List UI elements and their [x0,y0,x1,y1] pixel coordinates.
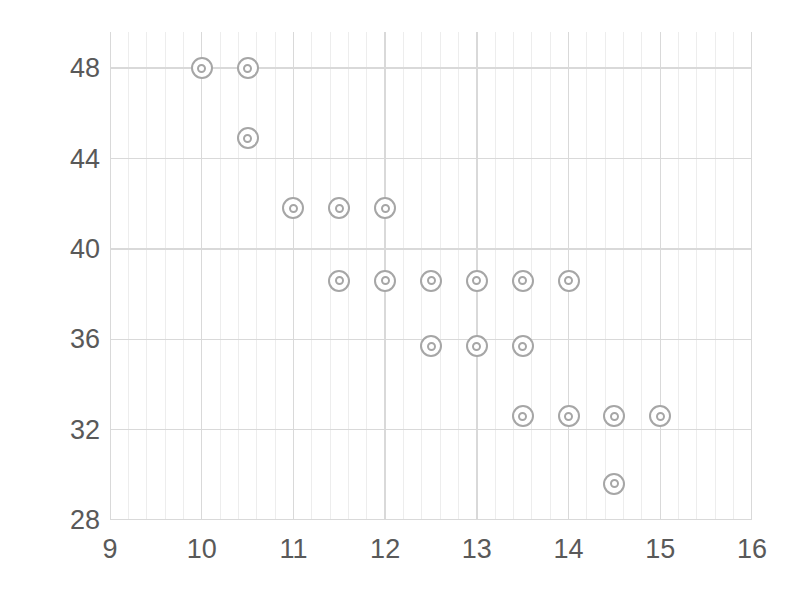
data-point [466,270,488,292]
x-axis-tick-label: 11 [253,536,333,563]
x-axis-tick-label: 9 [70,536,150,563]
data-point [603,473,625,495]
y-axis-tick-label: 32 [30,416,100,443]
data-point [649,405,671,427]
x-axis-tick-label: 10 [162,536,242,563]
data-point [328,197,350,219]
data-point [237,57,259,79]
data-point [282,197,304,219]
data-point [466,335,488,357]
y-axis-tick-label: 28 [30,507,100,534]
data-point [374,270,396,292]
x-axis-tick-label: 15 [620,536,700,563]
data-point [237,127,259,149]
x-axis-tick-label: 14 [529,536,609,563]
data-point [512,405,534,427]
y-axis-tick-label: 36 [30,326,100,353]
plot-area [110,32,752,520]
data-point [420,335,442,357]
data-point [558,405,580,427]
data-point [512,270,534,292]
y-axis-tick-label: 40 [30,235,100,262]
data-point [374,197,396,219]
data-point [558,270,580,292]
data-point [512,335,534,357]
data-point [328,270,350,292]
data-point [420,270,442,292]
data-point [603,405,625,427]
data-points-layer [110,32,752,520]
data-point [191,57,213,79]
x-axis-tick-label: 13 [437,536,517,563]
y-axis-tick-labels: 283236404448 [20,32,100,520]
x-axis-tick-label: 12 [345,536,425,563]
y-axis-tick-label: 44 [30,145,100,172]
scatter-chart: 283236404448 910111213141516 [0,0,800,612]
x-axis-tick-label: 16 [712,536,792,563]
x-axis-tick-labels: 910111213141516 [110,536,752,576]
y-axis-tick-label: 48 [30,55,100,82]
